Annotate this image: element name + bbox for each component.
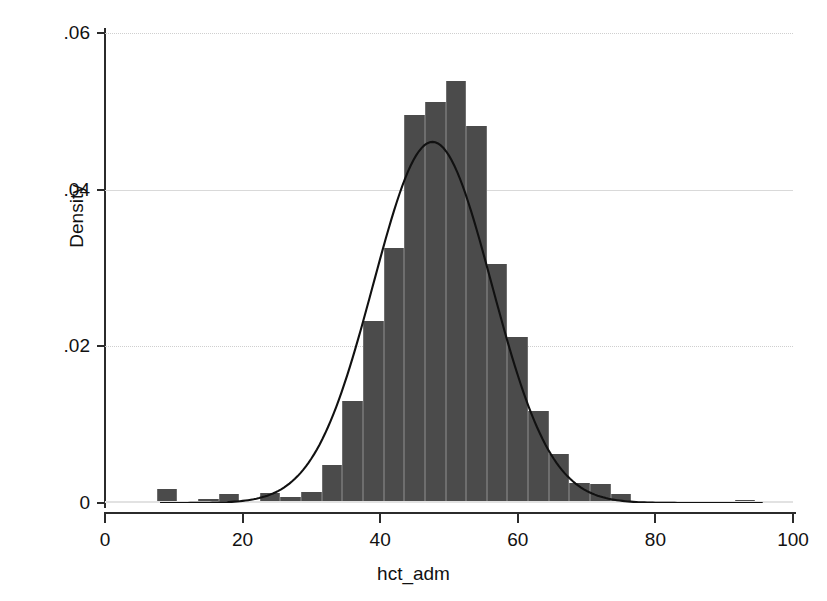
x-axis-line — [104, 512, 796, 514]
x-axis-tick-label: 100 — [753, 529, 827, 551]
histogram-bar — [322, 465, 343, 503]
histogram-bar — [507, 337, 528, 503]
x-axis-tick — [104, 512, 106, 523]
y-axis-tick-label: .04 — [0, 180, 90, 199]
histogram-bar — [342, 401, 363, 503]
histogram-figure: Density hct_adm 0.02.04.06 020406080100 — [0, 0, 827, 601]
x-axis-tick-label: 80 — [615, 529, 695, 551]
plot-area — [105, 33, 793, 503]
x-axis-tick-label: 0 — [65, 529, 145, 551]
x-axis-tick-label: 60 — [478, 529, 558, 551]
x-axis-title: hct_adm — [0, 563, 827, 585]
y-axis-tick-label: .02 — [0, 336, 90, 355]
histogram-bar — [466, 126, 487, 503]
y-axis-tick-label: .06 — [0, 23, 90, 42]
x-axis-tick-label: 20 — [203, 529, 283, 551]
gridline — [105, 33, 793, 34]
histogram-bar — [446, 81, 467, 503]
histogram-bar — [363, 321, 384, 503]
x-axis-tick — [379, 512, 381, 523]
histogram-bar — [487, 264, 508, 503]
plot-baseline — [105, 501, 793, 503]
x-axis-tick-label: 40 — [340, 529, 420, 551]
histogram-bar — [425, 102, 446, 503]
x-axis-tick — [242, 512, 244, 523]
histogram-bar — [549, 454, 570, 503]
histogram-bar — [384, 248, 405, 503]
y-axis-title: Density — [66, 136, 88, 296]
x-axis-tick — [654, 512, 656, 523]
x-axis-tick — [792, 512, 794, 523]
x-axis-tick — [517, 512, 519, 523]
histogram-bar — [528, 411, 549, 503]
histogram-bar — [404, 115, 425, 503]
y-axis-tick-label: 0 — [0, 493, 90, 512]
